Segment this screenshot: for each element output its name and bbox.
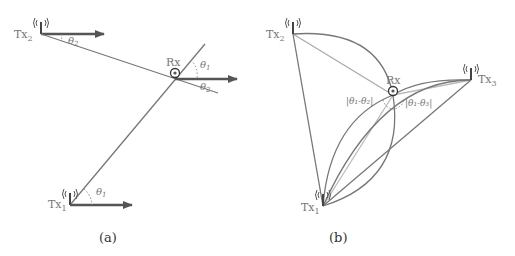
antenna-icon (63, 189, 78, 205)
panel-a: Tx2 θ2 Rx θ1 θ2 Tx1 θ1 (a) (14, 18, 237, 245)
tx1-label: Tx1 (48, 198, 67, 213)
diagram-canvas: Tx2 θ2 Rx θ1 θ2 Tx1 θ1 (a) (0, 0, 515, 256)
tx3-label: Tx3 (478, 73, 497, 88)
antenna-icon (286, 18, 301, 34)
tx1-rx-line (70, 44, 205, 205)
angle-diff-13-label: |θ₁-θ₃| (405, 98, 432, 109)
tx2-label: Tx2 (14, 28, 33, 43)
tx1-label: Tx1 (301, 201, 320, 216)
tx2-tx1-line (293, 34, 323, 206)
angle-diff-12-label: |θ₁-θ₂| (346, 96, 373, 107)
rx-label: Rx (166, 56, 181, 69)
panel-b: Rx |θ₁-θ₂| |θ₁-θ₃| Tx2 Tx3 Tx1 (b) (266, 18, 497, 245)
antenna-icon (464, 64, 479, 80)
caption-a: (a) (99, 230, 117, 245)
rx-label: Rx (386, 74, 401, 87)
antenna-icon (34, 18, 49, 34)
tx2-label: Tx2 (266, 28, 285, 43)
theta1-bottom-label: θ1 (96, 186, 107, 199)
theta2-rx-label: θ2 (200, 81, 211, 94)
theta2-label: θ2 (68, 35, 79, 48)
theta1-rx-label: θ1 (200, 59, 211, 72)
tx2-rx-line (293, 34, 393, 95)
caption-b: (b) (329, 230, 347, 245)
